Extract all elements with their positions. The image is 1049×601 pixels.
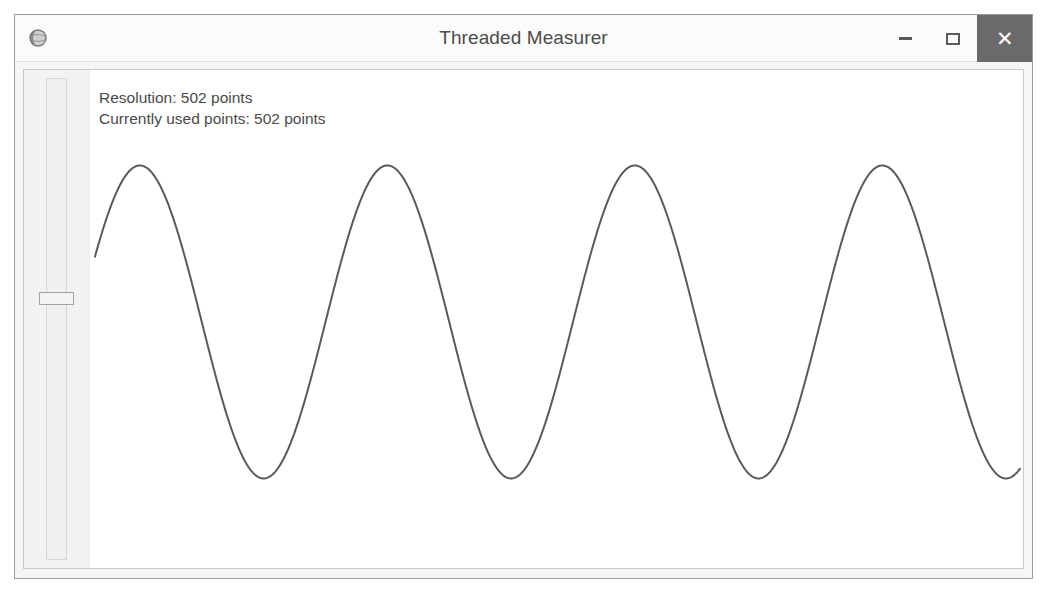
minimize-button[interactable]	[881, 15, 929, 62]
close-button[interactable]: ✕	[977, 15, 1032, 62]
window-controls: ✕	[881, 15, 1032, 62]
window-title: Threaded Measurer	[15, 27, 1032, 49]
close-icon: ✕	[996, 28, 1014, 49]
slider-strip	[24, 70, 90, 568]
maximize-button[interactable]	[929, 15, 977, 62]
application-window: Threaded Measurer ✕	[14, 14, 1033, 579]
slider-track[interactable]	[46, 78, 67, 560]
waveform-plot	[90, 70, 1023, 568]
slider-thumb[interactable]	[39, 292, 74, 305]
waveform-line	[95, 165, 1020, 478]
screen: Threaded Measurer ✕	[0, 0, 1049, 601]
minimize-icon	[899, 37, 912, 40]
plot-area: Resolution: 502 points Currently used po…	[90, 70, 1023, 568]
maximize-icon	[946, 33, 960, 45]
content-panel: Resolution: 502 points Currently used po…	[23, 69, 1024, 569]
client-area: Resolution: 502 points Currently used po…	[15, 62, 1032, 578]
title-bar[interactable]: Threaded Measurer ✕	[15, 15, 1032, 62]
resolution-slider[interactable]	[46, 78, 67, 560]
